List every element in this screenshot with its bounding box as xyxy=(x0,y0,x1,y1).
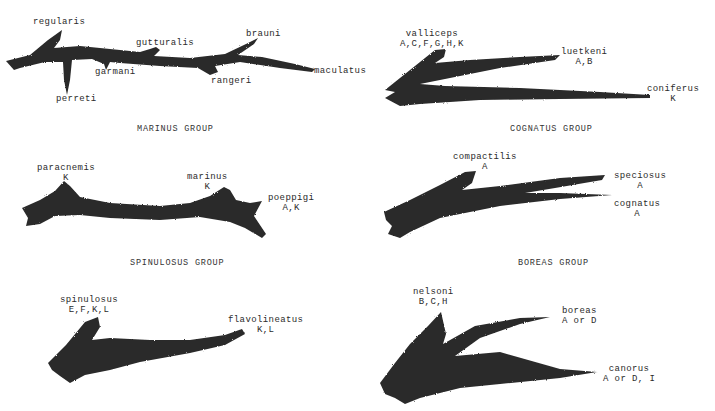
group-title: BOREAS GROUP xyxy=(518,258,589,268)
taxon-label: canorusA or D, I xyxy=(603,364,655,384)
taxon-name: valliceps xyxy=(400,29,464,39)
taxon-label: gutturalis xyxy=(136,38,194,48)
taxon-regions: K xyxy=(37,173,95,183)
taxon-name: spinulosus xyxy=(60,295,118,305)
taxon-label: coniferusK xyxy=(647,84,699,104)
taxon-name: nelsoni xyxy=(413,287,454,297)
taxon-name: marinus xyxy=(187,172,228,182)
taxon-name: flavolineatus xyxy=(228,315,303,325)
taxon-regions: K xyxy=(187,182,228,192)
taxon-label: compactilisA xyxy=(453,152,517,172)
taxon-name: rangeri xyxy=(211,76,252,86)
taxon-regions: A,B xyxy=(561,57,607,67)
taxon-name: cognatus xyxy=(614,199,660,209)
taxon-label: garmani xyxy=(95,67,136,77)
taxon-label: poeppigiA,K xyxy=(268,193,314,213)
taxon-regions: A xyxy=(453,162,517,172)
taxon-label: cognatusA xyxy=(614,199,660,219)
cognatus-group-tree xyxy=(385,49,650,106)
boreas-group-tree xyxy=(384,171,612,238)
taxon-label: vallicepsA,C,F,G,H,K xyxy=(400,29,464,49)
taxon-label: boreasA or D xyxy=(562,306,597,326)
spinulosus-group-tree xyxy=(22,181,266,238)
taxon-regions: A or D xyxy=(562,316,597,326)
taxon-name: compactilis xyxy=(453,152,517,162)
group-title: SPINULOSUS GROUP xyxy=(130,258,224,268)
taxon-label: brauni xyxy=(246,29,281,39)
group-title: COGNATUS GROUP xyxy=(510,124,593,134)
taxon-name: gutturalis xyxy=(136,38,194,48)
taxon-name: garmani xyxy=(95,67,136,77)
taxon-regions: A,K xyxy=(268,203,314,213)
taxon-name: regularis xyxy=(33,17,85,27)
taxon-label: maculatus xyxy=(314,66,366,76)
taxon-label: paracnemisK xyxy=(37,163,95,183)
taxon-name: luetkeni xyxy=(561,47,607,57)
taxon-regions: K xyxy=(647,94,699,104)
taxon-name: maculatus xyxy=(314,66,366,76)
taxon-name: speciosus xyxy=(614,171,666,181)
taxon-label: spinulosusE,F,K,L xyxy=(60,295,118,315)
taxon-name: paracnemis xyxy=(37,163,95,173)
taxon-regions: A,C,F,G,H,K xyxy=(400,39,464,49)
taxon-name: boreas xyxy=(562,306,597,316)
taxon-name: brauni xyxy=(246,29,281,39)
taxon-label: flavolineatusK,L xyxy=(228,315,303,335)
group-title: MARINUS GROUP xyxy=(137,124,214,134)
taxon-regions: A or D, I xyxy=(603,374,655,384)
phylogeny-drawings xyxy=(0,0,715,411)
taxon-label: regularis xyxy=(33,17,85,27)
taxon-label: speciosusA xyxy=(614,171,666,191)
taxon-label: marinusK xyxy=(187,172,228,192)
taxon-label: perreti xyxy=(56,94,97,104)
taxon-regions: K,L xyxy=(228,325,303,335)
taxon-regions: E,F,K,L xyxy=(60,305,118,315)
taxon-regions: A xyxy=(614,209,660,219)
spinulosus-lower-tree xyxy=(48,317,245,383)
taxon-regions: A xyxy=(614,181,666,191)
taxon-name: poeppigi xyxy=(268,193,314,203)
taxon-name: perreti xyxy=(56,94,97,104)
taxon-label: rangeri xyxy=(211,76,252,86)
taxon-label: luetkeniA,B xyxy=(561,47,607,67)
taxon-label: nelsoniB,C,H xyxy=(413,287,454,307)
taxon-regions: B,C,H xyxy=(413,297,454,307)
taxon-name: coniferus xyxy=(647,84,699,94)
taxon-name: canorus xyxy=(603,364,655,374)
